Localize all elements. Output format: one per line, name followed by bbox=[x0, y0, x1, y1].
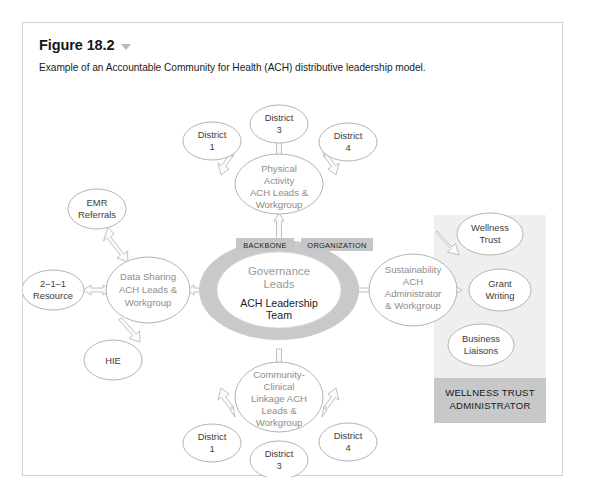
chevron-down-icon[interactable] bbox=[121, 44, 131, 50]
node-emr-referrals[interactable]: EMR Referrals bbox=[68, 189, 126, 229]
node-top-district-4-line1: District bbox=[334, 130, 363, 141]
arrow-community-clinical-district-4 bbox=[322, 388, 339, 417]
node-grant-writing[interactable]: Grant Writing bbox=[469, 269, 531, 311]
node-bottom-district-1[interactable]: District 1 bbox=[183, 424, 241, 462]
wellness-trust-label-line1: WELLNESS TRUST bbox=[445, 387, 535, 398]
node-wellness-trust[interactable]: Wellness Trust bbox=[457, 213, 523, 255]
node-top-district-4-line2: 4 bbox=[345, 142, 350, 153]
node-top-district-3-line1: District bbox=[265, 112, 294, 123]
hub-data-sharing-line1: Data Sharing bbox=[120, 271, 176, 282]
hub-community-clinical-line2: Clinical bbox=[264, 381, 295, 392]
node-top-district-4[interactable]: District 4 bbox=[319, 123, 377, 161]
hub-community-clinical-linkage[interactable]: Community- Clinical Linkage ACH Leads & … bbox=[235, 362, 323, 432]
node-emr-referrals-line1: EMR bbox=[87, 197, 108, 208]
hub-physical-activity-line3: ACH Leads & bbox=[250, 187, 309, 198]
node-business-liaisons-line2: Liaisons bbox=[464, 345, 499, 356]
hub-physical-activity-line2: Activity bbox=[264, 175, 295, 186]
page-title: Figure 18.2 bbox=[39, 37, 114, 53]
node-211-resource-line1: 2–1–1 bbox=[40, 278, 66, 289]
node-wellness-trust-line2: Trust bbox=[479, 234, 500, 245]
hub-sustainability[interactable]: Sustainability ACH Administrator & Workg… bbox=[369, 254, 457, 326]
node-bottom-district-3[interactable]: District 3 bbox=[250, 441, 308, 477]
node-grant-writing-line2: Writing bbox=[486, 290, 515, 301]
hub-community-clinical-line3: Linkage ACH bbox=[251, 393, 307, 404]
hub-sustainability-line1: Sustainability bbox=[385, 264, 442, 275]
node-top-district-3-line2: 3 bbox=[276, 124, 281, 135]
arrow-community-clinical-district-1 bbox=[218, 388, 235, 417]
leadership-model-diagram: WELLNESS TRUST ADMINISTRATOR bbox=[23, 79, 564, 477]
hub-sustainability-line3: Administrator bbox=[385, 288, 442, 299]
node-business-liaisons[interactable]: Business Liaisons bbox=[448, 324, 514, 366]
backbone-tag-label: BACKBONE bbox=[243, 241, 286, 250]
hub-physical-activity-line4: Workgroup bbox=[256, 199, 303, 210]
node-top-district-1-line1: District bbox=[198, 129, 227, 140]
node-hie[interactable]: HIE bbox=[84, 340, 142, 380]
node-bottom-district-4[interactable]: District 4 bbox=[319, 423, 377, 461]
hub-data-sharing-line3: Workgroup bbox=[125, 297, 172, 308]
figure-caption: Example of an Accountable Community for … bbox=[39, 62, 562, 73]
hub-community-clinical-line1: Community- bbox=[253, 369, 305, 380]
node-top-district-3[interactable]: District 3 bbox=[250, 105, 308, 143]
node-211-resource[interactable]: 2–1–1 Resource bbox=[23, 270, 84, 310]
node-211-resource-line2: Resource bbox=[33, 290, 73, 301]
arrow-data-sharing-emr-referrals bbox=[104, 227, 129, 262]
node-bottom-district-1-line1: District bbox=[198, 431, 227, 442]
core-leadership-line2: Team bbox=[266, 309, 292, 321]
core-leadership-line1: ACH Leadership bbox=[240, 297, 318, 309]
hub-data-sharing[interactable]: Data Sharing ACH Leads & Workgroup bbox=[106, 257, 190, 323]
node-bottom-district-3-line1: District bbox=[265, 448, 294, 459]
figure-frame: Figure 18.2 Example of an Accountable Co… bbox=[22, 22, 563, 476]
hub-sustainability-line4: & Workgroup bbox=[385, 300, 441, 311]
core-governance-line2: Leads bbox=[263, 278, 294, 290]
node-bottom-district-4-line2: 4 bbox=[345, 442, 350, 453]
figure-header: Figure 18.2 Example of an Accountable Co… bbox=[23, 23, 562, 73]
node-top-district-1[interactable]: District 1 bbox=[183, 122, 241, 160]
node-bottom-district-1-line2: 1 bbox=[209, 443, 214, 454]
hub-data-sharing-line2: ACH Leads & bbox=[119, 284, 178, 295]
organization-tag-label: ORGANIZATION bbox=[307, 241, 366, 250]
node-bottom-district-3-line2: 3 bbox=[276, 460, 281, 471]
wellness-trust-label-line2: ADMINISTRATOR bbox=[449, 400, 530, 411]
node-grant-writing-line1: Grant bbox=[488, 278, 512, 289]
node-hie-line1: HIE bbox=[105, 355, 121, 366]
node-top-district-1-line2: 1 bbox=[209, 141, 214, 152]
node-wellness-trust-line1: Wellness bbox=[471, 222, 509, 233]
node-emr-referrals-line2: Referrals bbox=[78, 209, 116, 220]
hub-physical-activity[interactable]: Physical Activity ACH Leads & Workgroup bbox=[235, 154, 323, 214]
node-bottom-district-4-line1: District bbox=[334, 430, 363, 441]
hub-sustainability-line2: ACH bbox=[403, 276, 423, 287]
hub-community-clinical-line4: Leads & bbox=[261, 405, 297, 416]
hub-community-clinical-line5: Workgroup bbox=[256, 417, 303, 428]
figure-title-row: Figure 18.2 bbox=[39, 37, 562, 53]
node-business-liaisons-line1: Business bbox=[462, 333, 500, 344]
hub-physical-activity-line1: Physical bbox=[261, 163, 297, 174]
core-governance-line1: Governance bbox=[248, 265, 310, 277]
